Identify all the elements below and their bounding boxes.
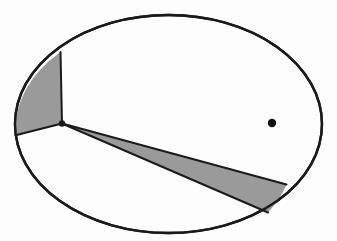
focus-dot <box>268 119 276 127</box>
geometry-figure <box>0 0 337 241</box>
apex-vertex <box>59 120 65 126</box>
figure-canvas <box>0 0 337 241</box>
